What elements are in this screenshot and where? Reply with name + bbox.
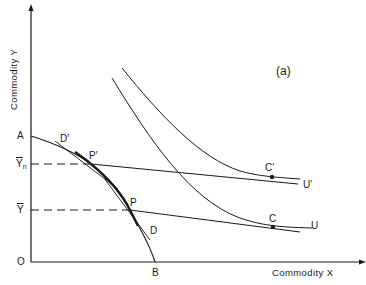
panel-label: (a) [276,66,291,76]
curve-d-prime-label: D′ [60,134,69,144]
point-a-label: A [17,131,24,141]
y-axis-title: Commodity Y [9,49,19,110]
point-p-prime-label: P′ [89,151,98,161]
x-axis-title: Commodity X [272,268,333,278]
point-c-marker [271,225,275,229]
tangent-line-d-prime [55,141,118,189]
y-bar-label: Y [17,205,24,215]
trade-diagram: Commodity Y Commodity X O (a) A Yn Y B P… [0,0,366,285]
point-c-prime-marker [270,175,274,179]
y-n-symbol: Y [16,158,23,169]
diagram-canvas [0,0,366,285]
curve-d-label: D [150,226,157,236]
point-c-prime-label: C′ [265,163,274,173]
curve-u-prime-label: U′ [303,180,312,190]
origin-label: O [17,257,25,267]
tangent-line-d [104,178,150,240]
x-axis-arrow-icon [359,260,366,265]
y-n-label: Yn [16,159,27,172]
y-n-subscript: n [23,163,27,170]
y-bar-symbol: Y [17,204,24,215]
y-axis-arrow-icon [29,4,34,11]
point-b-label: B [152,268,159,278]
indifference-curve-u [112,78,312,228]
point-p-label: P [130,198,137,208]
curve-u-label: U [311,221,318,231]
point-c-label: C [269,214,276,224]
